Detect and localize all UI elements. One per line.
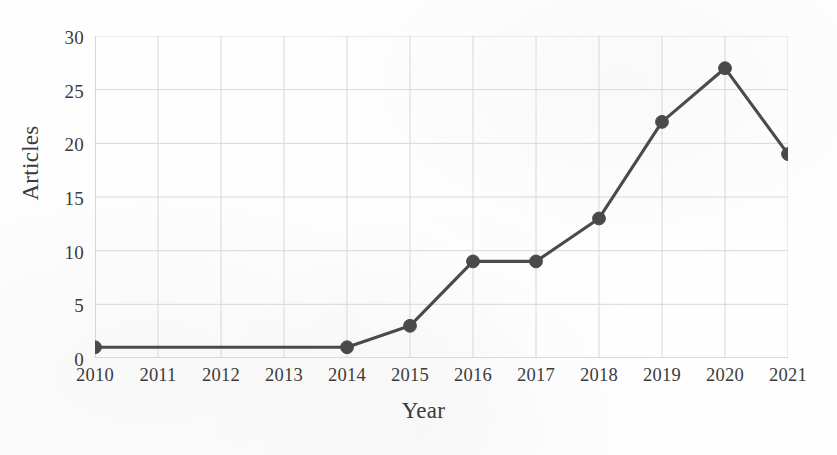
series-markers-articles bbox=[95, 62, 788, 354]
x-tick-label: 2018 bbox=[580, 366, 618, 385]
x-tick-label: 2017 bbox=[517, 366, 555, 385]
y-axis-tick-labels: 30 25 20 15 10 5 0 bbox=[32, 36, 84, 358]
x-tick-label: 2011 bbox=[139, 366, 176, 385]
x-axis-title: Year bbox=[0, 398, 837, 424]
y-tick-label: 20 bbox=[38, 135, 84, 154]
y-tick-label: 5 bbox=[38, 296, 84, 315]
x-tick-label: 2013 bbox=[265, 366, 303, 385]
x-tick-label: 2016 bbox=[454, 366, 492, 385]
y-tick-label: 25 bbox=[38, 82, 84, 101]
x-tick-label: 2021 bbox=[769, 366, 807, 385]
x-axis-tick-labels: 2010201120122013201420152016201720182019… bbox=[95, 366, 788, 394]
x-tick-label: 2010 bbox=[76, 366, 114, 385]
line-chart-svg bbox=[95, 36, 788, 358]
x-tick-label: 2020 bbox=[706, 366, 744, 385]
plot-area bbox=[95, 36, 788, 358]
x-tick-label: 2014 bbox=[328, 366, 366, 385]
chart-figure: Articles 30 25 20 15 10 5 0 201020112012… bbox=[0, 0, 837, 455]
y-tick-label: 15 bbox=[38, 189, 84, 208]
x-tick-label: 2015 bbox=[391, 366, 429, 385]
y-tick-label: 10 bbox=[38, 243, 84, 262]
x-tick-label: 2019 bbox=[643, 366, 681, 385]
x-axis-title-text: Year bbox=[392, 398, 446, 423]
x-tick-label: 2012 bbox=[202, 366, 240, 385]
series-line-articles bbox=[95, 68, 788, 347]
horizontal-gridlines bbox=[95, 36, 788, 358]
y-tick-label: 30 bbox=[38, 28, 84, 47]
